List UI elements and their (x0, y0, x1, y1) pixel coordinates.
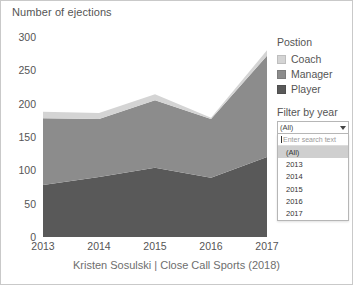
filter-option-2013[interactable]: 2013 (278, 158, 348, 170)
y-axis-tick: 100 (18, 164, 36, 176)
legend-item-label: Coach (291, 53, 321, 65)
area-series-manager (43, 56, 267, 185)
search-input[interactable]: Enter search text (278, 134, 348, 146)
filter-selected-value: (All) (280, 124, 293, 132)
legend-title: Postion (277, 36, 351, 48)
x-axis-tick: 2014 (87, 240, 110, 252)
x-axis-tick: 2017 (255, 240, 278, 252)
legend-item-label: Player (291, 83, 321, 95)
x-axis-tick: 2013 (31, 240, 54, 252)
legend-item-player[interactable]: Player (277, 83, 351, 95)
legend-item-coach[interactable]: Coach (277, 53, 351, 65)
filter-by-year-control: Filter by year (All) Enter search text (… (277, 106, 349, 221)
legend-swatch-icon (277, 85, 286, 94)
legend-swatch-icon (277, 55, 286, 64)
legend-item-label: Manager (291, 68, 332, 80)
legend: Postion CoachManagerPlayer (277, 36, 351, 98)
legend-swatch-icon (277, 70, 286, 79)
legend-items: CoachManagerPlayer (277, 53, 351, 95)
y-axis-tick: 200 (18, 98, 36, 110)
y-axis-tick: 150 (18, 131, 36, 143)
x-axis-tick: 2016 (199, 240, 222, 252)
y-axis: 050100150200250300 (0, 37, 40, 237)
text-caret-icon (281, 136, 282, 143)
chevron-down-icon[interactable] (340, 126, 346, 130)
x-axis: 20132014201520162017 (43, 240, 267, 256)
filter-option-2016[interactable]: 2016 (278, 196, 348, 208)
x-axis-tick: 2015 (143, 240, 166, 252)
filter-option-2014[interactable]: 2014 (278, 171, 348, 183)
filter-option-all[interactable]: (All) (278, 146, 348, 158)
filter-option-list: (All)20132014201520162017 (278, 146, 348, 220)
filter-select[interactable]: (All) (277, 121, 349, 134)
y-axis-tick: 300 (18, 31, 36, 43)
legend-item-manager[interactable]: Manager (277, 68, 351, 80)
search-placeholder: Enter search text (283, 136, 336, 143)
filter-dropdown: Enter search text (All)20132014201520162… (277, 134, 349, 221)
stacked-area-chart (43, 37, 267, 237)
y-axis-tick: 250 (18, 64, 36, 76)
plot-area (43, 37, 267, 237)
filter-option-2015[interactable]: 2015 (278, 183, 348, 195)
page-title: Number of ejections (12, 6, 112, 18)
filter-option-2017[interactable]: 2017 (278, 208, 348, 220)
filter-title: Filter by year (277, 106, 349, 118)
y-axis-tick: 50 (24, 198, 36, 210)
chart-caption: Kristen Sosulski | Close Call Sports (20… (0, 259, 353, 271)
